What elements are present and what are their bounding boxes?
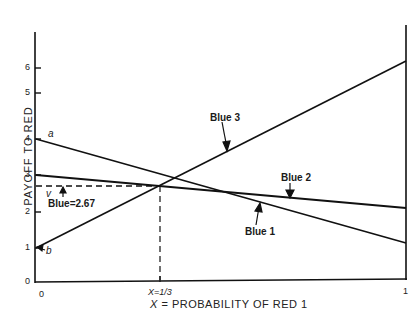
arrow-blue-2	[286, 183, 294, 198]
x-tick-label-0: 0	[39, 289, 44, 299]
x-axis-title-rest: = PROBABILITY OF RED 1	[161, 298, 307, 310]
y-axis-title: PAYOFF TO RED	[22, 106, 34, 206]
arrow-b	[37, 245, 45, 251]
arrow-blue-3	[222, 122, 230, 151]
x-axis-title: X = PROBABILITY OF RED 1	[150, 298, 308, 310]
blue-2-label: Blue 2	[281, 172, 311, 183]
y-ticks	[35, 68, 41, 248]
y-tick-label-5: 5	[25, 87, 30, 97]
blue-1-label: Blue 1	[245, 226, 275, 237]
y-tick-label-0: 0	[25, 276, 30, 286]
chart-canvas	[0, 0, 412, 322]
y-tick-label-6: 6	[25, 62, 30, 72]
arrow-value	[60, 187, 66, 197]
x-tick-label-1: 1	[403, 286, 408, 296]
x-var: X	[150, 298, 158, 310]
value-label: Blue=2.67	[48, 198, 95, 209]
x-axis	[35, 279, 407, 282]
blue-3-label: Blue 3	[210, 112, 240, 123]
x-tick-label-third: X=1/3	[148, 287, 172, 297]
point-b-label: b	[46, 245, 52, 256]
y-tick-label-2: 2	[25, 206, 30, 216]
arrow-blue-1	[255, 203, 262, 225]
y-tick-label-1: 1	[25, 242, 30, 252]
point-a-label: a	[48, 128, 54, 139]
